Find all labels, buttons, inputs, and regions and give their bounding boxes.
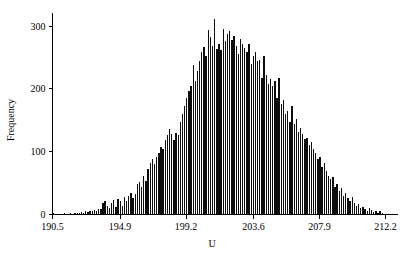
histogram-bar xyxy=(244,48,245,214)
chart-canvas: 190.5194.9199.2203.6207.9212.2 010020030… xyxy=(0,0,418,262)
histogram-bar xyxy=(145,181,146,214)
histogram-bar xyxy=(171,134,172,214)
histogram-bar xyxy=(117,199,118,214)
histogram-bar xyxy=(270,79,271,215)
histogram-bar xyxy=(227,34,228,215)
histogram-bar xyxy=(263,56,264,214)
y-tick-label: 200 xyxy=(31,83,46,94)
histogram-bar xyxy=(345,193,346,214)
histogram-bar xyxy=(160,147,161,215)
histogram-bar xyxy=(289,122,290,215)
histogram-bar xyxy=(98,209,99,215)
histogram-bar xyxy=(190,86,191,215)
histogram-bar xyxy=(283,100,284,214)
x-axis-ticks: 190.5194.9199.2203.6207.9212.2 xyxy=(41,215,397,232)
histogram-bar xyxy=(147,169,148,214)
histogram-bar xyxy=(96,211,97,215)
histogram-bar xyxy=(341,188,342,214)
histogram-bar xyxy=(156,157,157,215)
histogram-bar xyxy=(358,204,359,214)
histogram-bar xyxy=(268,84,269,215)
histogram-bar xyxy=(352,197,353,215)
histogram-bar xyxy=(195,81,196,214)
histogram-bar xyxy=(274,81,275,214)
histogram-bar xyxy=(246,52,247,214)
histogram-bar xyxy=(197,71,198,214)
histogram-bar xyxy=(201,52,202,214)
histogram-chart: 190.5194.9199.2203.6207.9212.2 010020030… xyxy=(0,0,418,262)
histogram-bar xyxy=(349,201,350,215)
histogram-bar xyxy=(276,98,277,215)
histogram-bar xyxy=(178,135,179,214)
histogram-bar xyxy=(319,157,320,215)
histogram-bar xyxy=(89,211,90,215)
histogram-bar xyxy=(150,163,151,215)
histogram-bar xyxy=(336,184,337,214)
histogram-bar xyxy=(306,138,307,215)
histogram-bar xyxy=(223,29,224,214)
histogram-bar xyxy=(193,65,194,214)
histogram-bar xyxy=(115,207,116,215)
histogram-bar xyxy=(180,122,181,215)
histogram-bar xyxy=(354,203,355,214)
histogram-bar xyxy=(143,176,144,215)
histogram-bar xyxy=(165,140,166,214)
histogram-bar xyxy=(218,44,219,215)
histogram-bar xyxy=(253,56,254,214)
histogram-bar xyxy=(255,52,256,214)
histogram-bar xyxy=(287,111,288,215)
histogram-bar xyxy=(124,197,125,215)
histogram-bar xyxy=(311,142,312,215)
histogram-bar xyxy=(321,167,322,215)
histogram-bar xyxy=(135,194,136,215)
histogram-bar xyxy=(257,61,258,214)
histogram-bar xyxy=(362,207,363,215)
histogram-bar xyxy=(132,198,133,215)
histogram-bars xyxy=(53,19,385,215)
histogram-bar xyxy=(102,203,103,215)
histogram-bar xyxy=(111,203,112,214)
histogram-bar xyxy=(162,149,163,214)
histogram-bar xyxy=(278,78,279,215)
y-tick-label: 0 xyxy=(41,209,46,220)
histogram-bar xyxy=(272,86,273,214)
histogram-bar xyxy=(324,163,325,215)
histogram-bar xyxy=(334,187,335,215)
histogram-bar xyxy=(330,179,331,214)
histogram-bar xyxy=(328,176,329,215)
histogram-bar xyxy=(317,159,318,214)
y-tick-label: 100 xyxy=(31,146,46,157)
histogram-bar xyxy=(158,153,159,215)
histogram-bar xyxy=(248,44,249,215)
histogram-bar xyxy=(233,36,234,214)
histogram-bar xyxy=(210,37,211,214)
histogram-bar xyxy=(205,56,206,214)
histogram-bar xyxy=(141,187,142,215)
histogram-bar xyxy=(203,47,204,214)
histogram-bar xyxy=(309,145,310,214)
histogram-bar xyxy=(364,209,365,214)
histogram-bar xyxy=(122,206,123,215)
histogram-bar xyxy=(291,106,292,214)
histogram-bar xyxy=(220,50,221,215)
histogram-bar xyxy=(313,149,314,214)
histogram-bar xyxy=(369,208,370,214)
histogram-bar xyxy=(296,119,297,214)
histogram-bar xyxy=(152,159,153,214)
histogram-bar xyxy=(109,208,110,214)
histogram-bar xyxy=(113,200,114,214)
histogram-bar xyxy=(107,206,108,215)
x-tick-label: 207.9 xyxy=(308,221,331,232)
histogram-bar xyxy=(212,46,213,214)
histogram-bar xyxy=(261,78,262,215)
histogram-bar xyxy=(302,134,303,214)
histogram-bar xyxy=(154,164,155,214)
histogram-bar xyxy=(281,104,282,215)
histogram-bar xyxy=(216,49,217,215)
y-tick-label: 300 xyxy=(31,21,46,32)
histogram-bar xyxy=(285,114,286,215)
histogram-bar xyxy=(169,129,170,214)
histogram-bar xyxy=(315,153,316,215)
histogram-bar xyxy=(208,30,209,215)
histogram-bar xyxy=(120,201,121,215)
